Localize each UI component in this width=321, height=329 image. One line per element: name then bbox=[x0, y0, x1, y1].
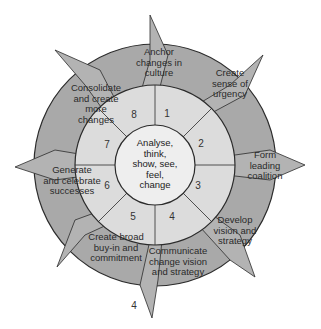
step-label-1: Create sense of urgency bbox=[198, 68, 262, 100]
step-number-1: 1 bbox=[160, 108, 174, 119]
step-number-2: 2 bbox=[194, 138, 208, 149]
step-number-4: 4 bbox=[165, 211, 179, 222]
step-label-8: Anchor changes in culture bbox=[128, 47, 190, 79]
step-number-5: 5 bbox=[126, 211, 140, 222]
step-number-8: 8 bbox=[127, 109, 141, 120]
step-label-5: Create broad buy-in and commitment bbox=[80, 232, 152, 264]
step-number-3: 3 bbox=[191, 180, 205, 191]
stray-number-label: 4 bbox=[127, 300, 141, 311]
step-label-3: Develop vision and strategy bbox=[203, 215, 267, 247]
step-label-2: Form leading coalition bbox=[235, 150, 295, 182]
step-number-7: 7 bbox=[100, 139, 114, 150]
center-label: Analyse, think, show, see, feel, change bbox=[118, 138, 192, 191]
step-label-7: Consolidate and create more changes bbox=[66, 83, 126, 125]
step-label-6: Generate and celebrate successes bbox=[36, 165, 108, 197]
